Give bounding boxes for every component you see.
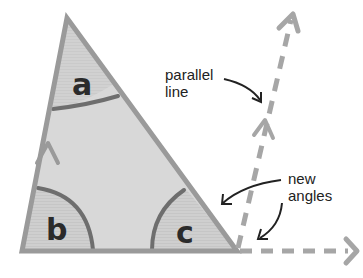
annotation-parallel-line-text-2: line bbox=[165, 83, 188, 100]
triangle-angle-diagram: a b c parallel line new angles bbox=[0, 0, 363, 278]
annotation-new-angles-text-1: new bbox=[288, 170, 316, 187]
annotation-parallel-line-text-1: parallel bbox=[165, 66, 213, 83]
annotation-new-angles-text-2: angles bbox=[288, 187, 332, 204]
new-angles-pointer-arrow-2-icon bbox=[260, 203, 282, 238]
angle-a-label: a bbox=[72, 67, 92, 102]
parallel-line-pointer-arrow-icon bbox=[224, 79, 260, 100]
angle-b-label: b bbox=[46, 212, 67, 247]
parallel-dashed-line bbox=[238, 20, 291, 248]
angle-c-label: c bbox=[176, 215, 194, 250]
